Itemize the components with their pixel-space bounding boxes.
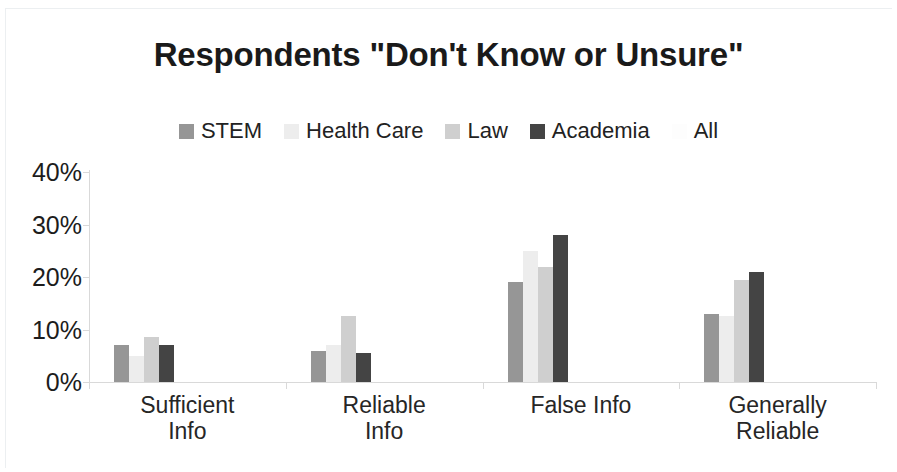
bar-stem-reliable-info[interactable] <box>311 351 326 383</box>
y-axis-tick-label: 30% <box>32 212 82 237</box>
bar-stem-generally-reliable[interactable] <box>704 314 719 382</box>
x-axis-divider <box>679 382 680 389</box>
y-axis-tick-mark <box>83 172 89 173</box>
y-axis-tick-label: 10% <box>32 317 82 342</box>
bar-academia-sufficient-info[interactable] <box>159 345 174 382</box>
x-axis-divider <box>286 382 287 389</box>
bar-academia-reliable-info[interactable] <box>356 353 371 382</box>
y-axis-tick-label: 20% <box>32 265 82 290</box>
bar-law-sufficient-info[interactable] <box>144 337 159 382</box>
chart-container: Respondents "Don't Know or Unsure" STEMH… <box>0 0 897 472</box>
bar-academia-false-info[interactable] <box>553 235 568 382</box>
bar-health-care-generally-reliable[interactable] <box>719 316 734 382</box>
y-axis-tick-label: 0% <box>46 370 82 395</box>
x-axis-category-label-line: Generally <box>679 392 876 418</box>
x-axis-category-label-line: Info <box>89 418 286 444</box>
plot-area: 0%10%20%30%40%SufficientInfoReliableInfo… <box>0 0 897 472</box>
x-axis-category-label-line: Reliable <box>286 392 483 418</box>
y-axis-tick-mark <box>83 277 89 278</box>
x-axis-category-label-line: Info <box>286 418 483 444</box>
bar-health-care-reliable-info[interactable] <box>326 345 341 382</box>
x-axis-divider <box>483 382 484 389</box>
x-axis-category-label-line: Reliable <box>679 418 876 444</box>
y-axis-tick-mark <box>83 330 89 331</box>
x-axis-category-label-line: False Info <box>483 392 680 418</box>
bar-stem-sufficient-info[interactable] <box>114 345 129 382</box>
x-axis-category-label: ReliableInfo <box>286 392 483 445</box>
x-axis-category-label: GenerallyReliable <box>679 392 876 445</box>
bar-law-reliable-info[interactable] <box>341 316 356 382</box>
bar-law-false-info[interactable] <box>538 267 553 383</box>
x-axis-divider <box>89 382 90 389</box>
y-axis-line <box>89 170 90 383</box>
bar-stem-false-info[interactable] <box>508 282 523 382</box>
bar-health-care-false-info[interactable] <box>523 251 538 382</box>
bar-law-generally-reliable[interactable] <box>734 280 749 382</box>
x-axis-category-label-line: Sufficient <box>89 392 286 418</box>
x-axis-category-label: SufficientInfo <box>89 392 286 445</box>
y-axis-tick-label: 40% <box>32 160 82 185</box>
y-axis-tick-mark <box>83 225 89 226</box>
x-axis-divider <box>876 382 877 389</box>
bar-academia-generally-reliable[interactable] <box>749 272 764 382</box>
bar-health-care-sufficient-info[interactable] <box>129 356 144 382</box>
x-axis-category-label: False Info <box>483 392 680 418</box>
